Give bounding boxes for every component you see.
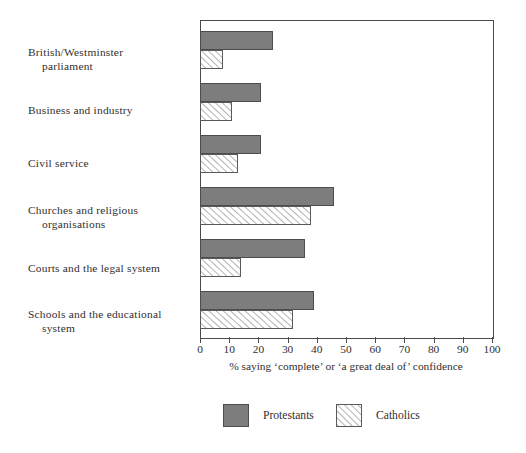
- legend-label-catholics: Catholics: [376, 409, 420, 422]
- solid-gray-swatch-icon: [223, 404, 249, 427]
- bar-catholics-courts-and-the-legal-system: [200, 258, 241, 277]
- bar-protestants-schools-and-the-educational-system: [200, 291, 314, 310]
- x-tick-label-60: 60: [369, 343, 380, 356]
- category-label-line1: Courts and the legal system: [28, 262, 160, 274]
- bar-catholics-british-westminster-parliament: [200, 50, 223, 69]
- hatch-fill: [201, 51, 222, 68]
- legend-label-protestants: Protestants: [263, 409, 314, 422]
- bars-layer: [200, 20, 492, 337]
- bar-catholics-schools-and-the-educational-system: [200, 310, 293, 329]
- bar-protestants-british-westminster-parliament: [200, 31, 273, 50]
- category-label-line2: organisations: [28, 217, 196, 231]
- hatch-fill: [201, 259, 240, 276]
- hatch-fill: [201, 103, 231, 120]
- x-tick-label-70: 70: [399, 343, 410, 356]
- category-label-schools-and-the-educational-system: Schools and the educational system: [28, 293, 196, 350]
- category-label-civil-service: Civil service: [28, 142, 196, 170]
- legend-item-catholics: Catholics: [336, 400, 420, 430]
- x-axis: 0102030405060708090100: [200, 337, 492, 357]
- category-label-line1: Churches and religious: [28, 204, 138, 216]
- x-tick-label-80: 80: [428, 343, 439, 356]
- category-label-churches-and-religious-organisations: Churches and religious organisations: [28, 189, 196, 246]
- bar-catholics-business-and-industry: [200, 102, 232, 121]
- bar-protestants-business-and-industry: [200, 83, 261, 102]
- category-label-line1: Civil service: [28, 157, 89, 169]
- confidence-bar-chart: British/Westminster parliament Business …: [0, 0, 526, 453]
- category-label-line1: Business and industry: [28, 104, 133, 116]
- x-tick-label-0: 0: [197, 343, 203, 356]
- hatch-fill: [201, 207, 310, 224]
- bar-protestants-churches-and-religious-organisations: [200, 187, 334, 206]
- bar-catholics-churches-and-religious-organisations: [200, 206, 311, 225]
- x-tick-label-50: 50: [340, 343, 351, 356]
- x-tick-label-20: 20: [253, 343, 264, 356]
- category-label-line2: system: [28, 321, 196, 335]
- category-label-line1: British/Westminster: [28, 46, 123, 58]
- x-tick-label-40: 40: [311, 343, 322, 356]
- category-label-line1: Schools and the educational: [28, 308, 162, 320]
- category-axis-labels: British/Westminster parliament Business …: [0, 0, 196, 340]
- x-tick-label-100: 100: [483, 343, 500, 356]
- category-label-business-and-industry: Business and industry: [28, 89, 196, 117]
- legend: Protestants Catholics: [195, 400, 465, 432]
- x-tick-label-10: 10: [223, 343, 234, 356]
- legend-item-protestants: Protestants: [223, 400, 314, 430]
- category-label-british-westminster-parliament: British/Westminster parliament: [28, 31, 196, 88]
- bar-protestants-courts-and-the-legal-system: [200, 239, 305, 258]
- category-label-line2: parliament: [28, 59, 196, 73]
- bar-protestants-civil-service: [200, 135, 261, 154]
- category-label-courts-and-the-legal-system: Courts and the legal system: [28, 247, 196, 275]
- hatch-fill: [201, 311, 292, 328]
- x-tick-label-30: 30: [282, 343, 293, 356]
- hatched-swatch-icon: [336, 404, 362, 427]
- x-tick-label-90: 90: [457, 343, 468, 356]
- x-axis-title: % saying ‘complete’ or ‘a great deal of’…: [200, 360, 492, 372]
- bar-catholics-civil-service: [200, 154, 238, 173]
- hatch-fill: [201, 155, 237, 172]
